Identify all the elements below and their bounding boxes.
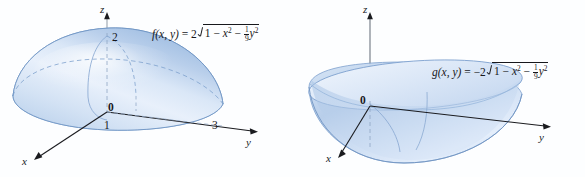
radical-sign-icon xyxy=(487,65,493,78)
left-equals: = xyxy=(182,28,189,40)
right-origin-label: 0 xyxy=(360,94,366,106)
right-y-power: 2 xyxy=(544,64,548,73)
left-fn-args: (x, y) xyxy=(155,28,179,40)
left-x-axis-label: x xyxy=(22,155,27,167)
left-minus-2: − xyxy=(235,28,242,40)
panel-upper-hemiellipsoid: z y x 2 0 1 3 f(x, y) = 21 − x2 − 19y2 xyxy=(0,0,292,177)
left-tick-y-3: 3 xyxy=(212,119,218,131)
left-y-axis-label: y xyxy=(246,136,251,148)
left-formula: f(x, y) = 21 − x2 − 19y2 xyxy=(152,24,259,42)
left-tick-x-1: 1 xyxy=(104,119,110,131)
right-minus-1: − xyxy=(503,66,510,78)
right-fn-args: (x, y) xyxy=(438,66,462,78)
right-fraction-one-ninth: 19 xyxy=(533,64,538,80)
right-x-power: 2 xyxy=(517,64,521,73)
figure-canvas: z y x 2 0 1 3 f(x, y) = 21 − x2 − 19y2 xyxy=(0,0,585,177)
right-z-axis-label: z xyxy=(363,3,367,15)
right-radicand-one: 1 xyxy=(494,66,500,78)
radical-sign-icon xyxy=(198,27,204,40)
left-z-axis-label: z xyxy=(100,3,104,15)
left-x-power: 2 xyxy=(228,26,232,35)
right-formula: g(x, y) = −21 − x2 − 19y2 xyxy=(432,62,548,80)
left-radicand-one: 1 xyxy=(205,28,211,40)
left-y-power: 2 xyxy=(255,26,259,35)
right-minus-2: − xyxy=(524,66,531,78)
right-y-axis-label: y xyxy=(539,131,544,143)
left-radicand: 1 − x2 − 19y2 xyxy=(203,24,259,42)
right-x-axis-label: x xyxy=(326,152,331,164)
panel-lower-hemiellipsoid: z y x 0 g(x, y) = −21 − x2 − 19y2 xyxy=(292,0,585,177)
left-minus-1: − xyxy=(213,28,220,40)
right-coefficient: −2 xyxy=(474,66,486,78)
left-radical: 1 − x2 − 19y2 xyxy=(197,24,260,42)
right-frac-den: 9 xyxy=(533,73,538,81)
left-tick-z-2: 2 xyxy=(112,31,118,43)
right-equals: = xyxy=(464,66,471,78)
right-radicand: 1 − x2 − 19y2 xyxy=(492,62,548,80)
left-frac-den: 9 xyxy=(244,35,249,43)
left-origin-label: 0 xyxy=(108,101,114,113)
right-plot-svg xyxy=(292,0,585,177)
left-fraction-one-ninth: 19 xyxy=(244,26,249,42)
right-radical: 1 − x2 − 19y2 xyxy=(486,62,549,80)
